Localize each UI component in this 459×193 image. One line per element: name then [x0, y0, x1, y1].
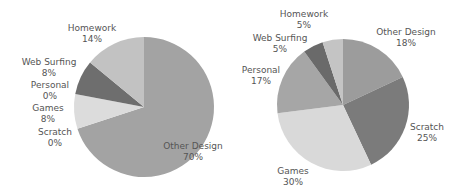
pie-charts: Other Design70%Scratch0%Games8%Personal0… [0, 0, 459, 193]
slice-label-scratch: Scratch25% [410, 122, 444, 143]
slice-label-scratch: Scratch0% [38, 127, 72, 148]
slice-label-web-surfing: Web Surfing5% [253, 33, 308, 54]
slice-label-other-design: Other Design18% [376, 27, 436, 48]
pie-chart-right: Other Design18%Scratch25%Games30%Persona… [242, 9, 444, 187]
slice-label-personal: Personal0% [31, 80, 69, 101]
slice-label-web-surfing: Web Surfing8% [22, 57, 77, 78]
slice-label-homework: Homework5% [280, 9, 329, 30]
slice-label-games: Games30% [277, 166, 309, 187]
slice-label-games: Games8% [32, 103, 64, 124]
slice-label-personal: Personal17% [242, 65, 280, 86]
slice-label-homework: Homework14% [68, 23, 117, 44]
pie-chart-left: Other Design70%Scratch0%Games8%Personal0… [22, 23, 223, 177]
